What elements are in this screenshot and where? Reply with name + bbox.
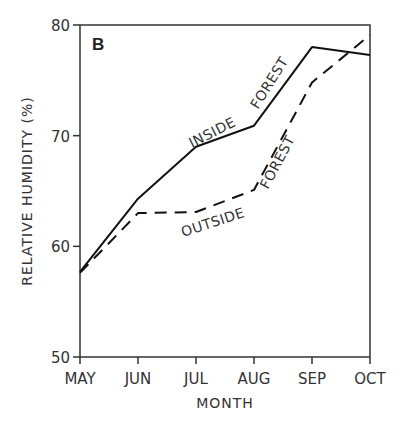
x-axis-ticks: MAYJUNJULAUGSEPOCT	[64, 357, 386, 388]
y-tick-label: 50	[51, 349, 70, 367]
inside-forest-line	[80, 47, 370, 272]
panel-label: B	[92, 35, 104, 54]
x-tick-label: JUN	[124, 370, 152, 388]
x-axis-title: MONTH	[196, 395, 254, 411]
x-tick-label: AUG	[238, 370, 271, 388]
y-axis-ticks: 50607080	[51, 17, 80, 367]
inside-forest-label: INSIDE	[186, 114, 238, 151]
outside-forest-line	[80, 35, 370, 273]
x-tick-label: OCT	[354, 370, 386, 388]
y-tick-label: 70	[51, 128, 70, 146]
x-tick-label: MAY	[64, 370, 96, 388]
y-tick-label: 80	[51, 17, 70, 35]
outside-forest-label-2: FOREST	[257, 133, 298, 192]
humidity-line-chart: 50607080 MAYJUNJULAUGSEPOCT INSIDEFOREST…	[0, 0, 401, 428]
y-tick-label: 60	[51, 238, 70, 256]
plot-axes	[80, 25, 370, 357]
x-tick-label: SEP	[298, 370, 326, 388]
x-tick-label: JUL	[183, 370, 208, 388]
y-axis-title: RELATIVE HUMIDITY (%)	[19, 96, 35, 285]
data-series	[80, 35, 370, 273]
plot-frame	[80, 25, 370, 357]
outside-forest-label: OUTSIDE	[179, 204, 247, 240]
